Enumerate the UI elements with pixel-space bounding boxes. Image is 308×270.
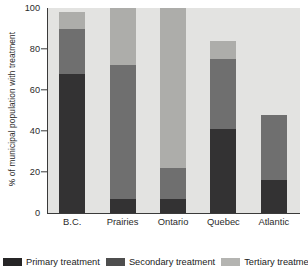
x-tick-label-atlantic: Atlantic bbox=[258, 216, 289, 227]
bar-segment-tertiary[interactable] bbox=[160, 8, 186, 168]
x-tick-label-prairies: Prairies bbox=[107, 216, 139, 227]
y-axis-tick-labels: 020406080100 bbox=[0, 0, 47, 222]
legend-swatch-primary bbox=[3, 258, 22, 266]
x-axis-tick-labels: B.C.PrairiesOntarioQuebecAtlantic bbox=[47, 216, 299, 234]
bar-segment-secondary[interactable] bbox=[210, 59, 236, 129]
legend-swatch-secondary bbox=[106, 258, 125, 266]
y-tick-label-40: 40 bbox=[30, 126, 40, 136]
y-tick-label-60: 60 bbox=[30, 85, 40, 95]
y-tick-label-100: 100 bbox=[25, 3, 40, 13]
bar-slot-bc bbox=[47, 8, 97, 213]
y-tick-label-80: 80 bbox=[30, 44, 40, 54]
x-tick-label-bc: B.C. bbox=[63, 216, 81, 227]
bar-segment-secondary[interactable] bbox=[261, 115, 287, 181]
stacked-bar-chart: % of municipal population with treatment… bbox=[0, 0, 308, 270]
bar-group bbox=[47, 8, 299, 213]
bar-segment-secondary[interactable] bbox=[160, 168, 186, 199]
bar-segment-primary[interactable] bbox=[110, 199, 136, 213]
bar-segment-secondary[interactable] bbox=[59, 29, 85, 74]
bar-slot-prairies bbox=[97, 8, 147, 213]
bar-segment-primary[interactable] bbox=[160, 199, 186, 213]
x-tick-label-ontario: Ontario bbox=[158, 216, 189, 227]
legend-item-tertiary[interactable]: Tertiary treatment bbox=[221, 257, 308, 267]
legend-label: Tertiary treatment bbox=[244, 257, 308, 267]
y-tick-label-20: 20 bbox=[30, 167, 40, 177]
bar-slot-ontario bbox=[148, 8, 198, 213]
x-tick-label-quebec: Quebec bbox=[207, 216, 240, 227]
legend-swatch-tertiary bbox=[221, 258, 240, 266]
legend-item-primary[interactable]: Primary treatment bbox=[3, 257, 100, 267]
legend-item-secondary[interactable]: Secondary treatment bbox=[106, 257, 215, 267]
bar-segment-primary[interactable] bbox=[59, 74, 85, 213]
y-tick-label-0: 0 bbox=[35, 208, 40, 218]
bar-segment-primary[interactable] bbox=[261, 180, 287, 213]
bar-slot-quebec bbox=[198, 8, 248, 213]
legend-label: Primary treatment bbox=[26, 257, 100, 267]
chart-legend: Primary treatmentSecondary treatmentTert… bbox=[3, 255, 307, 268]
bar-segment-tertiary[interactable] bbox=[110, 8, 136, 65]
bar-slot-atlantic bbox=[249, 8, 299, 213]
bar-segment-tertiary[interactable] bbox=[59, 12, 85, 28]
legend-label: Secondary treatment bbox=[129, 257, 215, 267]
bar-segment-tertiary[interactable] bbox=[210, 41, 236, 59]
bar-segment-secondary[interactable] bbox=[110, 65, 136, 198]
bar-segment-primary[interactable] bbox=[210, 129, 236, 213]
